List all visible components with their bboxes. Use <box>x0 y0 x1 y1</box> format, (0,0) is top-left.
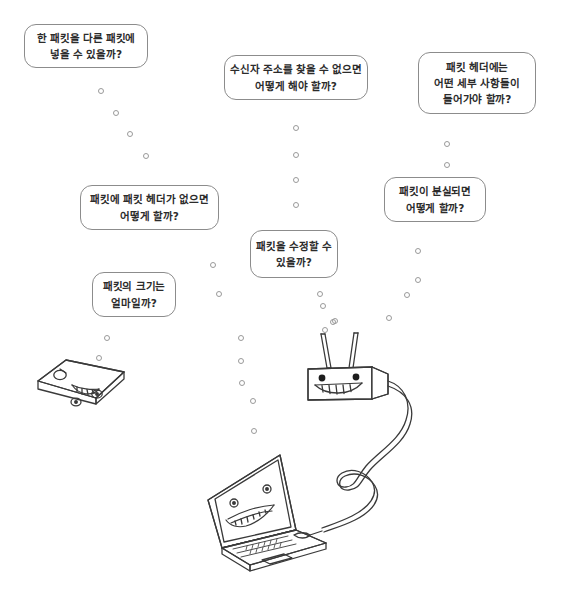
bubble-line: 패킷을 수정할 수 <box>256 238 332 254</box>
packet-dot <box>216 291 222 297</box>
packet-dot <box>322 327 328 333</box>
bubble-line: 들어가야 할까? <box>443 91 511 107</box>
network-cable <box>322 381 412 532</box>
bubble-line: 패킷에 패킷 헤더가 없으면 <box>90 191 208 207</box>
packet-dot <box>320 303 326 309</box>
packet-dot <box>404 292 410 298</box>
packet-dot <box>127 131 133 137</box>
packet-dot <box>113 110 119 116</box>
bubble-line: 수신자 주소를 찾을 수 없으면 <box>230 61 361 77</box>
packet-dot <box>143 153 149 159</box>
question-no-packet-header: 패킷에 패킷 헤더가 없으면어떻게 할까? <box>80 185 219 230</box>
question-packet-lost: 패킷이 분실되면어떻게 할까? <box>384 177 486 222</box>
packet-dot <box>293 152 299 158</box>
packet-dot <box>293 177 299 183</box>
router-character <box>308 333 388 400</box>
packet-dot <box>210 262 216 268</box>
bubble-line: 어떤 세부 사항들이 <box>434 75 519 91</box>
packet-dot <box>444 141 450 147</box>
packet-dot <box>415 248 421 254</box>
illustration-canvas: 한 패킷을 다른 패킷에넣을 수 있을까?수신자 주소를 찾을 수 없으면어떻게… <box>0 0 568 591</box>
packet-dot <box>332 318 338 324</box>
packet-dot <box>293 125 299 131</box>
bubble-line: 어떻게 해야 할까? <box>255 78 336 94</box>
bubble-line: 패킷의 크기는 <box>103 278 165 294</box>
packet-dot <box>98 88 104 94</box>
laptop-character <box>208 455 326 571</box>
packet-dot <box>250 398 256 404</box>
packet-dot <box>317 291 323 297</box>
bubble-line: 어떻게 할까? <box>120 208 178 224</box>
bubble-line: 패킷 헤더에는 <box>446 59 508 75</box>
question-packet-size: 패킷의 크기는얼마일까? <box>92 272 176 317</box>
packet-dot <box>239 380 245 386</box>
question-packet-header-details: 패킷 헤더에는어떤 세부 사항들이들어가야 할까? <box>418 52 536 114</box>
packet-dot <box>251 428 257 434</box>
packet-dot <box>444 162 450 168</box>
packet-dot <box>96 355 102 361</box>
question-receiver-address-not-found: 수신자 주소를 찾을 수 없으면어떻게 해야 할까? <box>224 55 368 100</box>
question-packet-in-packet: 한 패킷을 다른 패킷에넣을 수 있을까? <box>24 24 148 68</box>
packet-dot <box>238 335 244 341</box>
bubble-line: 넣을 수 있을까? <box>50 46 122 62</box>
bubble-line: 한 패킷을 다른 패킷에 <box>37 30 136 46</box>
packet-dot <box>104 335 110 341</box>
bubble-line: 어떻게 할까? <box>406 200 464 216</box>
bubble-line: 패킷이 분실되면 <box>399 183 471 199</box>
packet-dot <box>293 202 299 208</box>
packet-dot <box>238 358 244 364</box>
packet-dot <box>386 315 392 321</box>
mobile-phone-character <box>38 360 124 406</box>
bubble-line: 얼마일까? <box>111 295 156 311</box>
question-modify-packet: 패킷을 수정할 수있을까? <box>250 230 338 278</box>
bubble-line: 있을까? <box>276 254 311 270</box>
packet-dot <box>415 277 421 283</box>
